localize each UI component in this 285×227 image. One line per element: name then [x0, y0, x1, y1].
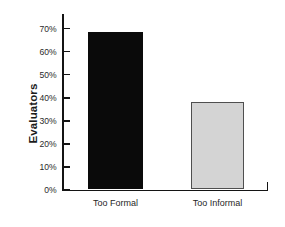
x-axis-end-tick — [267, 182, 269, 191]
x-axis-label-too-informal: Too Informal — [193, 198, 243, 208]
y-axis-tick: 10% — [64, 166, 71, 168]
x-axis-label-too-formal: Too Formal — [93, 198, 138, 208]
x-axis-line — [62, 190, 268, 192]
bar-too-formal — [88, 32, 143, 189]
y-axis-tick-label: 30% — [39, 116, 56, 126]
y-axis-tick-label: 50% — [39, 70, 56, 80]
y-axis-tick: 0% — [64, 189, 71, 191]
bar-chart: Evaluators 0%10%20%30%40%50%60%70% Too F… — [0, 0, 285, 227]
y-axis-title: Evaluators — [22, 0, 44, 227]
bar-too-informal — [191, 102, 244, 190]
y-axis-tick: 50% — [64, 74, 71, 76]
y-axis-tick-label: 20% — [39, 139, 56, 149]
y-axis-tick-label: 40% — [39, 93, 56, 103]
y-axis-tick-label: 0% — [44, 185, 56, 195]
y-axis-tick: 70% — [64, 28, 71, 30]
y-axis-tick: 60% — [64, 51, 71, 53]
plot-area: 0%10%20%30%40%50%60%70% — [62, 14, 268, 191]
y-axis-tick-label: 60% — [39, 47, 56, 57]
y-axis-tick: 30% — [64, 120, 71, 122]
y-axis-line — [62, 14, 64, 191]
y-axis-tick-label: 10% — [39, 162, 56, 172]
y-axis-tick-label: 70% — [39, 24, 56, 34]
y-axis-tick: 40% — [64, 97, 71, 99]
y-axis-tick: 20% — [64, 143, 71, 145]
